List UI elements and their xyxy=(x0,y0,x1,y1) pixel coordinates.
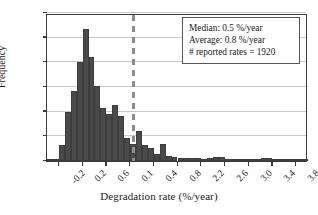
stats-legend-box: Median: 0.5 %/year Average: 0.8 %/year #… xyxy=(182,17,300,64)
x-tick-label: 0.8 xyxy=(187,168,202,183)
y-tick-mark xyxy=(43,61,47,62)
legend-line-average: Average: 0.8 %/year xyxy=(189,34,294,46)
x-tick-label: -0.2 xyxy=(69,168,87,186)
x-tick-mark xyxy=(129,162,130,166)
x-axis-title: Degradation rate (%/year) xyxy=(0,190,318,202)
x-tick-mark xyxy=(271,162,272,166)
x-tick-label: 3.4 xyxy=(282,168,297,183)
x-tick-mark xyxy=(200,162,201,166)
median-reference-line xyxy=(132,15,135,161)
gridline xyxy=(47,12,306,13)
x-tick-label: 0.1 xyxy=(140,168,155,183)
y-tick-mark xyxy=(43,135,47,136)
x-tick-label: 2.2 xyxy=(211,168,226,183)
y-tick-mark xyxy=(43,160,47,161)
y-tick-mark xyxy=(43,110,47,111)
x-tick-label: 2.6 xyxy=(234,168,249,183)
x-tick-mark xyxy=(153,162,154,166)
x-tick-mark xyxy=(82,162,83,166)
x-tick-mark xyxy=(105,162,106,166)
x-tick-label: 3.0 xyxy=(258,168,273,183)
x-tick-mark xyxy=(177,162,178,166)
legend-line-count: # reported rates = 1920 xyxy=(189,46,294,58)
x-tick-mark xyxy=(58,162,59,166)
x-tick-label: 3.8 xyxy=(306,168,318,183)
y-tick-mark xyxy=(43,36,47,37)
x-tick-mark xyxy=(248,162,249,166)
x-tick-mark xyxy=(224,162,225,166)
y-axis-title: Frequency xyxy=(0,46,7,88)
y-tick-mark xyxy=(43,86,47,87)
legend-line-median: Median: 0.5 %/year xyxy=(189,22,294,34)
histogram-figure: Frequency 050100150200250300 -0.20.20.60… xyxy=(0,0,318,215)
x-tick-mark xyxy=(295,162,296,166)
x-tick-label: 0.6 xyxy=(116,168,131,183)
histogram-bar xyxy=(302,159,308,161)
x-tick-label: 0.2 xyxy=(92,168,107,183)
x-tick-label: 0.4 xyxy=(163,168,178,183)
y-tick-mark xyxy=(43,12,47,13)
